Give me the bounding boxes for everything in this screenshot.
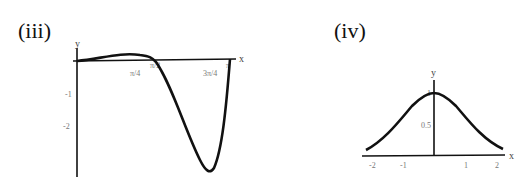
chart-iv: y x -2 -1 1 2 1 0.5 [362, 67, 514, 170]
x-ticks-iv: -2 -1 1 2 [369, 161, 499, 170]
charts-canvas: y x π/4 π/2 3π/4 π -1 -2 y x -2 -1 1 2 1… [0, 0, 526, 190]
y-ticks-iii: -1 -2 [63, 90, 72, 131]
y-axis-label-iv: y [431, 67, 436, 78]
svg-text:-2: -2 [63, 122, 70, 131]
x-axis-iv [362, 155, 505, 156]
svg-text:-1: -1 [400, 161, 407, 170]
svg-text:3π/4: 3π/4 [203, 69, 217, 78]
svg-text:-2: -2 [369, 161, 376, 170]
svg-text:-1: -1 [65, 90, 72, 99]
svg-text:0.5: 0.5 [421, 121, 431, 130]
svg-text:2: 2 [495, 161, 499, 170]
x-axis-label-iii: x [239, 53, 244, 64]
svg-text:1: 1 [464, 161, 468, 170]
x-ticks-iii: π/4 π/2 3π/4 π [130, 61, 230, 78]
x-axis-label-iv: x [509, 150, 514, 161]
chart-iii: y x π/4 π/2 3π/4 π -1 -2 [63, 38, 244, 177]
svg-text:π/4: π/4 [130, 69, 140, 78]
y-axis-label-iii: y [75, 38, 80, 49]
